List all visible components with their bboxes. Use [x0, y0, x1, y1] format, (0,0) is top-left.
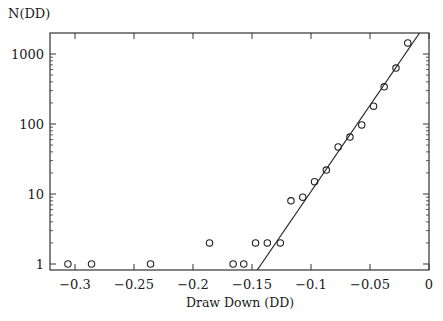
data-point	[300, 194, 306, 200]
y-tick-label: 1	[36, 257, 44, 272]
tick-labels: −0.3−0.25−0.2−0.15−0.1−0.0501101001000	[11, 47, 433, 292]
axes-box	[50, 33, 429, 270]
y-tick-label: 1000	[11, 47, 44, 62]
data-point	[288, 198, 294, 204]
data-point	[359, 122, 365, 128]
data-point	[230, 261, 236, 267]
data-point	[206, 240, 212, 246]
plot-frame	[50, 33, 429, 270]
data-point	[405, 40, 411, 46]
x-tick-label: −0.1	[295, 277, 327, 292]
fit-line-path	[257, 33, 420, 271]
data-point	[147, 261, 153, 267]
x-axis-label: Draw Down (DD)	[186, 295, 294, 310]
x-tick-label: −0.2	[177, 277, 209, 292]
fit-line	[257, 33, 420, 271]
data-points	[65, 40, 411, 267]
x-tick-label: −0.15	[232, 277, 272, 292]
y-axis-label: N(DD)	[8, 6, 50, 21]
data-point	[241, 261, 247, 267]
y-tick-label: 10	[27, 187, 44, 202]
data-point	[370, 103, 376, 109]
data-point	[264, 240, 270, 246]
y-tick-label: 100	[19, 117, 44, 132]
data-point	[88, 261, 94, 267]
x-tick-label: −0.3	[59, 277, 91, 292]
x-tick-label: −0.05	[350, 277, 390, 292]
axis-ticks	[50, 33, 429, 270]
data-point	[65, 261, 71, 267]
data-point	[311, 178, 317, 184]
x-tick-label: 0	[425, 277, 433, 292]
data-point	[335, 144, 341, 150]
drawdown-chart: −0.3−0.25−0.2−0.15−0.1−0.0501101001000 N…	[0, 0, 443, 321]
data-point	[252, 240, 258, 246]
data-point	[277, 240, 283, 246]
x-tick-label: −0.25	[114, 277, 154, 292]
